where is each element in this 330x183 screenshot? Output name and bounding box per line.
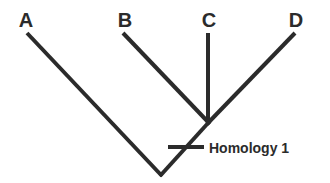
branch-d — [207, 33, 295, 124]
taxon-label-a: A — [19, 9, 33, 31]
cladogram: A B C D Homology 1 — [0, 0, 330, 183]
branch-b — [123, 33, 210, 124]
homology-label: Homology 1 — [209, 140, 289, 156]
taxon-label-c: C — [202, 9, 216, 31]
taxon-label-b: B — [118, 9, 132, 31]
taxon-label-d: D — [289, 9, 303, 31]
